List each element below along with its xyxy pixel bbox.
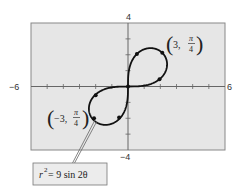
data-point (126, 85, 130, 89)
data-point (117, 115, 121, 119)
data-point (92, 116, 96, 120)
y-max-label: 4 (126, 12, 131, 22)
svg-text:r: r (39, 169, 43, 180)
svg-text:4: 4 (189, 45, 193, 54)
svg-text:= 9 sin 2θ: = 9 sin 2θ (48, 169, 88, 180)
equation-box: r 2 = 9 sin 2θ (33, 163, 107, 185)
svg-text:): ) (82, 105, 89, 130)
data-point (160, 51, 164, 55)
data-point (94, 93, 98, 97)
svg-text:4: 4 (74, 119, 78, 128)
y-min-label: −4 (120, 152, 130, 162)
svg-text:): ) (196, 31, 203, 56)
svg-text:−3,: −3, (54, 113, 67, 124)
x-min-label: −6 (9, 82, 19, 92)
data-point (158, 77, 162, 81)
svg-text:3,: 3, (173, 39, 181, 50)
chart-figure: −6 6 4 −4 ( 3, π 4 ) ( −3, π 4 ) r 2 = 9… (0, 0, 249, 189)
data-point (135, 52, 139, 56)
x-max-label: 6 (227, 82, 232, 92)
